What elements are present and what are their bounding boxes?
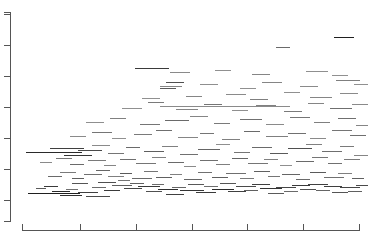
data-point bbox=[314, 122, 330, 123]
data-point bbox=[190, 116, 208, 117]
data-point bbox=[122, 108, 142, 109]
data-point bbox=[78, 192, 98, 193]
data-point bbox=[110, 118, 126, 119]
data-point bbox=[350, 135, 366, 136]
data-point bbox=[306, 144, 322, 145]
data-point bbox=[198, 149, 220, 150]
data-point bbox=[310, 138, 326, 139]
data-point bbox=[144, 151, 164, 152]
data-point bbox=[276, 47, 290, 48]
data-point bbox=[48, 176, 62, 177]
data-point bbox=[200, 84, 218, 85]
data-point bbox=[170, 174, 182, 175]
data-point bbox=[70, 136, 86, 137]
data-point bbox=[340, 146, 354, 147]
data-point bbox=[84, 174, 102, 175]
data-point bbox=[134, 134, 152, 135]
data-point bbox=[352, 178, 364, 179]
data-point bbox=[244, 131, 260, 132]
data-point bbox=[228, 191, 246, 192]
data-point bbox=[88, 160, 106, 161]
data-point bbox=[152, 184, 164, 185]
data-point bbox=[310, 97, 332, 98]
y-axis-tick-5 bbox=[4, 169, 10, 170]
data-point bbox=[288, 148, 312, 149]
data-point bbox=[170, 72, 190, 73]
data-point bbox=[308, 103, 324, 104]
data-point bbox=[124, 188, 142, 189]
data-point bbox=[56, 158, 72, 159]
data-point bbox=[268, 176, 280, 177]
data-point bbox=[160, 86, 182, 87]
data-point bbox=[176, 109, 198, 110]
x-axis-tick-2 bbox=[136, 224, 137, 230]
data-point bbox=[156, 130, 172, 131]
data-point bbox=[352, 104, 368, 105]
data-point bbox=[340, 187, 360, 188]
data-point bbox=[198, 172, 212, 173]
data-point bbox=[312, 157, 328, 158]
x-axis-tick-6 bbox=[359, 224, 360, 230]
data-point bbox=[166, 194, 184, 195]
data-point bbox=[120, 173, 132, 174]
data-point bbox=[306, 71, 328, 72]
data-point bbox=[104, 190, 120, 191]
data-point bbox=[250, 99, 268, 100]
y-axis-tick-3 bbox=[4, 107, 10, 108]
data-point bbox=[104, 165, 116, 166]
y-axis-spine bbox=[10, 12, 11, 222]
data-point bbox=[290, 117, 310, 118]
data-point bbox=[96, 170, 110, 171]
data-point bbox=[92, 145, 110, 146]
data-point bbox=[162, 146, 178, 147]
y-axis-tick-4 bbox=[4, 138, 10, 139]
data-point bbox=[142, 98, 160, 99]
data-point bbox=[338, 173, 352, 174]
data-point bbox=[220, 183, 236, 184]
y-axis-tick-1 bbox=[4, 45, 10, 46]
data-point bbox=[212, 189, 234, 190]
data-point bbox=[332, 130, 352, 131]
data-point bbox=[328, 163, 342, 164]
data-point bbox=[180, 154, 198, 155]
data-point bbox=[214, 123, 230, 124]
x-axis-tick-5 bbox=[303, 224, 304, 230]
data-point bbox=[266, 124, 284, 125]
data-point bbox=[50, 148, 84, 149]
data-point bbox=[330, 108, 352, 109]
data-point bbox=[148, 102, 164, 103]
data-point bbox=[86, 196, 110, 197]
data-point bbox=[284, 111, 302, 112]
data-point bbox=[252, 74, 270, 75]
data-point bbox=[332, 192, 348, 193]
data-point bbox=[66, 189, 78, 190]
data-point bbox=[240, 119, 262, 120]
data-point bbox=[60, 172, 76, 173]
data-point bbox=[118, 180, 130, 181]
data-point bbox=[340, 93, 358, 94]
data-point bbox=[216, 144, 230, 145]
data-point bbox=[292, 185, 310, 186]
y-axis-tick-6 bbox=[4, 200, 10, 201]
data-point bbox=[204, 104, 222, 105]
data-point bbox=[252, 184, 270, 185]
data-point bbox=[296, 179, 310, 180]
data-point bbox=[268, 193, 284, 194]
data-point bbox=[248, 163, 268, 164]
data-point bbox=[282, 174, 300, 175]
data-point bbox=[26, 152, 82, 153]
data-point bbox=[160, 88, 176, 89]
data-point bbox=[152, 157, 166, 158]
y-axis-tick-7 bbox=[4, 221, 10, 222]
data-point bbox=[188, 184, 204, 185]
data-point bbox=[288, 133, 306, 134]
data-point bbox=[60, 195, 82, 196]
data-point bbox=[184, 179, 202, 180]
data-point bbox=[98, 182, 116, 183]
data-point bbox=[300, 189, 316, 190]
data-point bbox=[168, 162, 184, 163]
data-point bbox=[354, 84, 368, 85]
data-point bbox=[266, 136, 288, 137]
data-point bbox=[234, 152, 250, 153]
data-point bbox=[324, 177, 344, 178]
